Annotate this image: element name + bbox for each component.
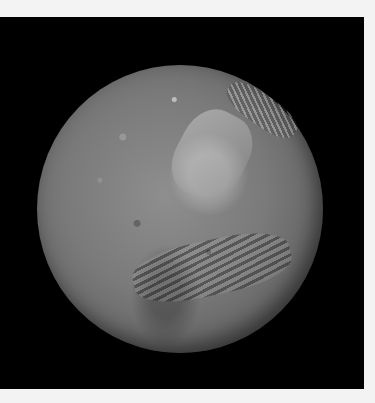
banded-terrain (128, 224, 296, 311)
image-frame (0, 17, 364, 389)
moon-disk (37, 65, 323, 353)
